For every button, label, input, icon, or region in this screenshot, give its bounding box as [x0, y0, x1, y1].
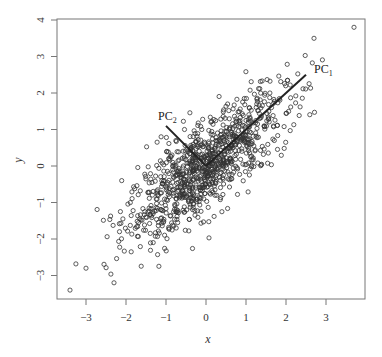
data-point — [243, 170, 247, 174]
data-point — [285, 62, 289, 66]
data-point — [275, 123, 279, 127]
data-point — [121, 217, 125, 221]
data-point — [145, 145, 149, 149]
data-point — [159, 135, 163, 139]
data-point — [312, 110, 316, 114]
x-tick-label: −1 — [160, 311, 172, 323]
data-point — [126, 229, 130, 233]
data-point — [155, 201, 159, 205]
data-point — [218, 186, 222, 190]
data-point — [196, 215, 200, 219]
data-point — [188, 111, 192, 115]
data-point — [118, 210, 122, 214]
data-point — [277, 74, 281, 78]
data-point — [129, 214, 133, 218]
pc2-label: PC2 — [158, 109, 177, 125]
data-point — [247, 113, 251, 117]
data-point — [217, 94, 221, 98]
data-point — [238, 172, 242, 176]
data-point — [138, 213, 142, 217]
pc1-label: PC1 — [314, 62, 333, 78]
data-point — [268, 91, 272, 95]
data-point — [164, 135, 168, 139]
data-point — [282, 125, 286, 129]
data-point — [199, 221, 203, 225]
data-point — [147, 196, 151, 200]
y-tick-label: −1 — [34, 197, 46, 209]
data-point — [122, 249, 126, 253]
data-point — [138, 189, 142, 193]
data-point — [267, 102, 271, 106]
data-point — [95, 207, 99, 211]
data-point — [275, 147, 279, 151]
data-point — [241, 179, 245, 183]
data-point — [182, 127, 186, 131]
data-point — [285, 78, 289, 82]
pc2-label-sub: 2 — [173, 116, 177, 125]
data-point — [294, 101, 298, 105]
data-point — [102, 262, 106, 266]
data-point — [261, 152, 265, 156]
data-point — [279, 80, 283, 84]
data-point — [156, 253, 160, 257]
data-point — [226, 206, 230, 210]
data-point — [207, 236, 211, 240]
data-point — [151, 241, 155, 245]
data-point — [167, 141, 171, 145]
data-point — [238, 107, 242, 111]
data-point — [136, 193, 140, 197]
data-point — [273, 118, 277, 122]
x-tick-label: −2 — [120, 311, 132, 323]
data-point — [268, 96, 272, 100]
data-point — [235, 97, 239, 101]
data-point — [74, 262, 78, 266]
data-point — [288, 83, 292, 87]
data-point — [136, 214, 140, 218]
data-point — [212, 214, 216, 218]
data-point — [244, 70, 248, 74]
data-point — [221, 192, 225, 196]
data-point — [175, 214, 179, 218]
data-point — [109, 272, 113, 276]
data-point — [131, 209, 135, 213]
data-point — [352, 25, 356, 29]
data-point — [208, 115, 212, 119]
data-point — [308, 113, 312, 117]
y-tick-label: −3 — [34, 269, 46, 281]
data-point — [197, 149, 201, 153]
data-point — [181, 119, 185, 123]
data-point — [148, 248, 152, 252]
data-point — [112, 281, 116, 285]
data-point — [252, 92, 256, 96]
data-point — [154, 174, 158, 178]
data-point — [163, 233, 167, 237]
data-point — [248, 88, 252, 92]
data-point — [304, 87, 308, 91]
data-point — [138, 245, 142, 249]
data-point — [256, 161, 260, 165]
data-point — [120, 179, 124, 183]
x-tick-label: 0 — [203, 311, 209, 323]
data-point — [159, 201, 163, 205]
y-tick-label: 2 — [34, 90, 46, 96]
data-point — [297, 113, 301, 117]
data-point — [219, 117, 223, 121]
pc2-label-main: PC — [158, 109, 173, 123]
data-point — [309, 86, 313, 90]
data-point — [289, 105, 293, 109]
data-point — [148, 221, 152, 225]
data-point — [84, 266, 88, 270]
data-point — [312, 36, 316, 40]
data-point — [292, 123, 296, 127]
data-point — [231, 107, 235, 111]
data-point — [148, 231, 152, 235]
y-tick-label: 3 — [34, 53, 46, 59]
data-point — [249, 80, 253, 84]
data-point — [187, 217, 191, 221]
data-point — [129, 250, 133, 254]
data-point — [218, 171, 222, 175]
data-point — [276, 134, 280, 138]
data-point — [298, 105, 302, 109]
data-point — [205, 199, 209, 203]
data-point — [235, 192, 239, 196]
